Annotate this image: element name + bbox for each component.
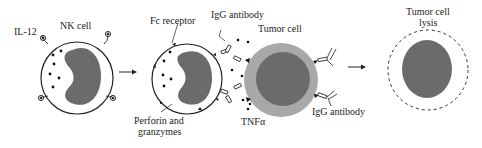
- tnfa-label: TNFα: [241, 116, 265, 127]
- igg-antibodies-tumor: [318, 48, 337, 106]
- nk-cell-engaged: [152, 23, 225, 114]
- fc-receptor-label: Fc receptor: [150, 15, 195, 26]
- igg-antibody-bottom-label: IgG antibody: [312, 106, 365, 117]
- lysed-tumor-cell: [388, 30, 468, 110]
- il12-label: IL-12: [14, 26, 37, 37]
- diagram-canvas: IL-12 NK cell Fc receptor IgG antibody T…: [0, 0, 482, 148]
- igg-antibodies-synapse: [220, 45, 241, 103]
- tumor-cell-label: Tumor cell: [258, 23, 302, 34]
- tumor-lysis-label-line1: Tumor cell: [406, 6, 450, 17]
- igg-antibody-top-label: IgG antibody: [211, 9, 264, 20]
- tumor-cell: [244, 43, 319, 117]
- arrow-2: [348, 65, 366, 70]
- perforin-label-line2: granzymes: [138, 126, 181, 137]
- arrow-1: [119, 70, 137, 75]
- tumor-lysis-label-line2: lysis: [419, 17, 437, 28]
- nk-cell: [38, 31, 115, 114]
- perforin-label-line1: Perforin and: [134, 115, 184, 126]
- nk-cell-label: NK cell: [60, 20, 91, 31]
